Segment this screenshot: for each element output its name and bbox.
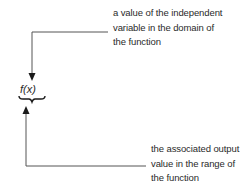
input-annotation-line-3: the function — [113, 35, 222, 50]
brace-icon — [19, 96, 45, 102]
input-annotation-line-1: a value of the independent — [113, 6, 222, 21]
output-arrow-icon — [23, 106, 147, 166]
output-annotation: the associated output value in the range… — [151, 142, 239, 186]
function-notation-diagram: f(x) a value of the independent variable… — [0, 0, 245, 196]
output-annotation-line-2: value in the range of — [151, 157, 239, 172]
output-annotation-line-3: the function — [151, 171, 239, 186]
output-annotation-line-1: the associated output — [151, 142, 239, 157]
function-notation-text: f(x) — [20, 83, 36, 95]
input-arrow-icon — [29, 32, 109, 81]
input-annotation-line-2: variable in the domain of — [113, 21, 222, 36]
input-annotation: a value of the independent variable in t… — [113, 6, 222, 50]
function-notation: f(x) — [20, 83, 36, 95]
